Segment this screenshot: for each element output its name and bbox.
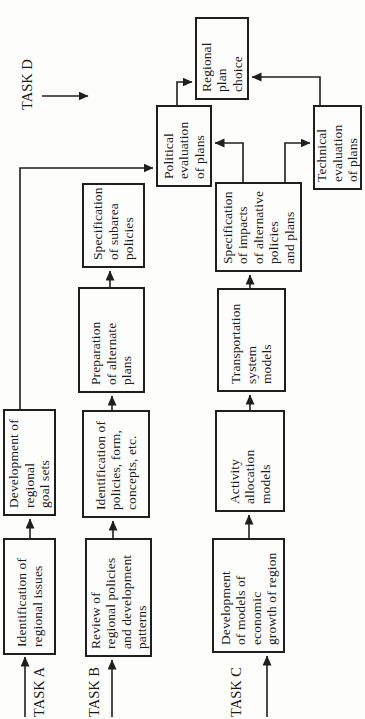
- flowchart-canvas: TASK A TASK B TASK C TASK D Identificati…: [0, 0, 365, 719]
- box-activity-allocation-models: Activity allocation models: [215, 410, 285, 512]
- box-identification-policies-form: Identification of policies, form, concep…: [82, 410, 150, 518]
- box-political-evaluation-of-plans: Political evaluation of plans: [156, 105, 212, 187]
- box-identification-regional-issues: Identification of regional issues: [3, 538, 56, 655]
- box-development-regional-goal-sets: Development of regional goal sets: [3, 409, 56, 516]
- task-c-label: TASK C: [228, 667, 244, 717]
- scanned-figure-page: TASK A TASK B TASK C TASK D Identificati…: [0, 0, 365, 719]
- task-d-label: TASK D: [19, 59, 35, 110]
- box-specification-of-impacts: Specification of impacts of alternative …: [215, 182, 302, 272]
- box-preparation-alternate-plans: Preparation of alternate plans: [78, 287, 145, 393]
- arrow-impacts-to-political: [215, 143, 243, 182]
- task-a-label: TASK A: [31, 667, 47, 717]
- box-technical-evaluation-of-plans: Technical evaluation of plans: [313, 105, 362, 190]
- box-regional-plan-choice: Regional plan choice: [195, 17, 249, 100]
- arrow-political-to-choice: [177, 82, 192, 105]
- box-review-regional-policies: Review of regional policies and developm…: [85, 538, 152, 657]
- box-transportation-system-models: Transportation system models: [217, 288, 286, 392]
- box-specification-subarea-policies: Specification of subarea policies: [82, 183, 145, 268]
- task-b-label: TASK B: [86, 667, 102, 717]
- box-development-models-economic-growth: Development of models of economic growth…: [212, 538, 285, 653]
- arrow-technical-to-choice: [252, 77, 320, 105]
- arrow-impacts-to-technical: [285, 143, 310, 182]
